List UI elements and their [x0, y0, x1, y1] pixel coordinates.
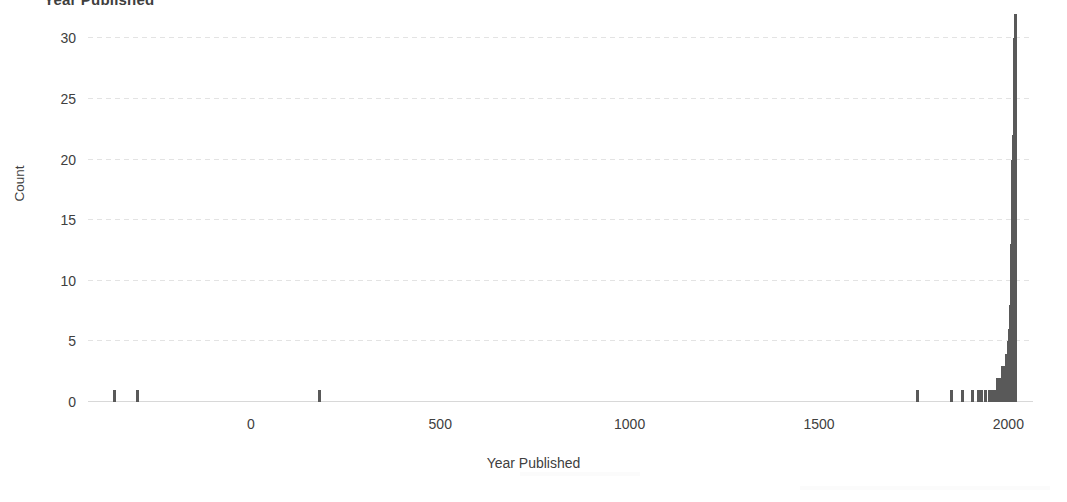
x-axis-title: Year Published	[0, 455, 1067, 471]
x-axis-tick-label: 500	[429, 416, 452, 432]
scan-artifact	[800, 486, 1050, 490]
y-axis-tick-label: 5	[68, 333, 76, 349]
x-axis-tick-label: 0	[247, 416, 255, 432]
y-axis-tick-label: 25	[60, 91, 76, 107]
y-axis-title: Count	[12, 180, 27, 202]
histogram-bar	[113, 390, 116, 402]
scan-artifact	[520, 472, 640, 476]
histogram-bar	[977, 390, 980, 402]
plot-area: 051015202530 0500100015002000	[88, 8, 1033, 402]
histogram-bar	[950, 390, 953, 402]
gridline-y-5	[88, 340, 1033, 341]
histogram-figure: Year Published Count 051015202530 050010…	[0, 0, 1067, 502]
plot-inner: 051015202530	[88, 8, 1033, 402]
y-axis-tick-label: 0	[68, 394, 76, 410]
histogram-bar	[1014, 366, 1017, 402]
x-axis-tick-label: 2000	[993, 416, 1024, 432]
gridline-y-10	[88, 280, 1033, 281]
chart-title: Year Published	[44, 0, 154, 8]
histogram-bar	[318, 390, 321, 402]
gridline-y-30	[88, 37, 1033, 38]
histogram-bar	[971, 390, 974, 402]
histogram-bar	[916, 390, 919, 402]
histogram-bar	[984, 390, 987, 402]
gridline-y-20	[88, 159, 1033, 160]
y-axis-tick-label: 10	[60, 273, 76, 289]
x-axis-tick-label: 1000	[614, 416, 645, 432]
gridline-y-0	[88, 401, 1033, 402]
histogram-bar	[980, 390, 983, 402]
histogram-bar	[136, 390, 139, 402]
histogram-bar	[961, 390, 964, 402]
gridline-y-15	[88, 219, 1033, 220]
x-axis-tick-label: 1500	[803, 416, 834, 432]
y-axis-tick-label: 20	[60, 152, 76, 168]
gridline-y-25	[88, 98, 1033, 99]
y-axis-tick-label: 15	[60, 212, 76, 228]
y-axis-tick-label: 30	[60, 30, 76, 46]
